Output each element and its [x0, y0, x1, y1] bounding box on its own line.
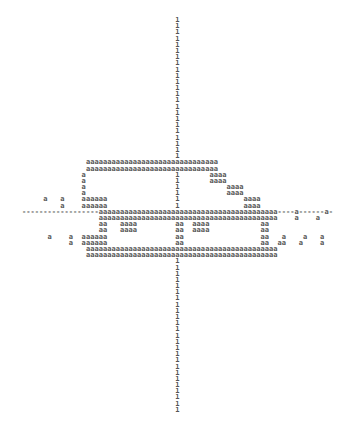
ascii-plot: 1 1 1 1 1 1 [22, 17, 331, 413]
plot-row: 1 [22, 407, 333, 413]
